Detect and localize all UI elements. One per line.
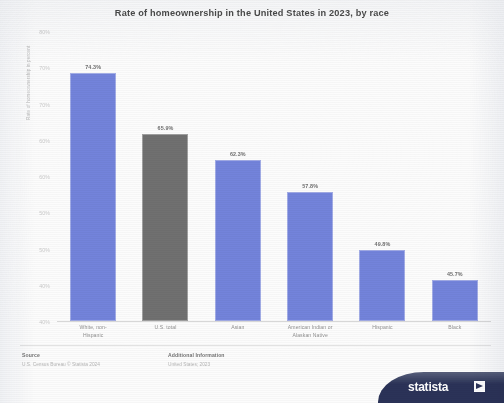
- x-category-label: Hispanic: [353, 324, 411, 354]
- bar-group: 45.7%: [426, 32, 484, 321]
- source-text: U.S. Census Bureau © Statista 2024: [22, 361, 152, 368]
- y-tick-label: 50%: [24, 247, 50, 253]
- source-block: Source U.S. Census Bureau © Statista 202…: [22, 352, 152, 368]
- y-tick-label: 70%: [24, 102, 50, 108]
- bar[interactable]: [359, 250, 405, 321]
- x-category-label: Black: [426, 324, 484, 354]
- y-tick-label: 50%: [24, 210, 50, 216]
- page-title: Rate of homeownership in the United Stat…: [0, 8, 504, 18]
- x-axis-baseline: [57, 321, 491, 322]
- bar[interactable]: [70, 73, 116, 321]
- x-category-line: Hispanic: [353, 324, 411, 332]
- bar-group: 62.3%: [209, 32, 267, 321]
- x-category-line: Asian: [209, 324, 267, 332]
- bar-value-label: 45.7%: [426, 271, 484, 277]
- statista-wordmark: statista: [408, 380, 448, 394]
- bar-group: 57.8%: [281, 32, 339, 321]
- statista-brand-bar: statista: [378, 372, 504, 403]
- statista-logo-mark-icon: [474, 381, 485, 392]
- x-category-label: White, non-Hispanic: [64, 324, 122, 354]
- bar-value-label: 57.8%: [281, 183, 339, 189]
- y-tick-label: 70%: [24, 65, 50, 71]
- y-tick-label: 60%: [24, 174, 50, 180]
- additional-info-text: United States; 2023: [168, 361, 308, 368]
- y-tick-label: 40%: [24, 319, 50, 325]
- y-tick-label: 60%: [24, 138, 50, 144]
- x-category-line: U.S. total: [136, 324, 194, 332]
- additional-info-block: Additional Information United States; 20…: [168, 352, 308, 368]
- x-category-line: Alaskan Native: [281, 332, 339, 340]
- bar-group: 74.3%: [64, 32, 122, 321]
- x-category-label: Asian: [209, 324, 267, 354]
- bar-value-label: 65.9%: [136, 125, 194, 131]
- bar-group: 49.8%: [353, 32, 411, 321]
- bar-value-label: 62.3%: [209, 151, 267, 157]
- bar-value-label: 74.3%: [64, 64, 122, 70]
- source-heading: Source: [22, 352, 152, 359]
- bar-value-label: 49.8%: [353, 241, 411, 247]
- additional-info-heading: Additional Information: [168, 352, 308, 359]
- x-category-line: Hispanic: [64, 332, 122, 340]
- bar[interactable]: [287, 192, 333, 321]
- bar-group: 65.9%: [136, 32, 194, 321]
- y-axis-ticks: 80%70%70%60%60%50%50%40%40%: [20, 32, 50, 322]
- y-tick-label: 40%: [24, 283, 50, 289]
- x-category-label: American Indian orAlaskan Native: [281, 324, 339, 354]
- x-category-line: White, non-: [64, 324, 122, 332]
- bar-series: 74.3%65.9%62.3%57.8%49.8%45.7%: [57, 32, 491, 321]
- y-tick-label: 80%: [24, 29, 50, 35]
- bar[interactable]: [142, 134, 188, 321]
- x-category-line: Black: [426, 324, 484, 332]
- x-category-label: U.S. total: [136, 324, 194, 354]
- x-axis-categories: White, non-HispanicU.S. totalAsianAmeric…: [57, 324, 491, 354]
- bar[interactable]: [215, 160, 261, 321]
- chart-page: Rate of homeownership in the United Stat…: [0, 0, 504, 403]
- bar[interactable]: [432, 280, 478, 321]
- x-category-line: American Indian or: [281, 324, 339, 332]
- footer-divider: [20, 345, 491, 346]
